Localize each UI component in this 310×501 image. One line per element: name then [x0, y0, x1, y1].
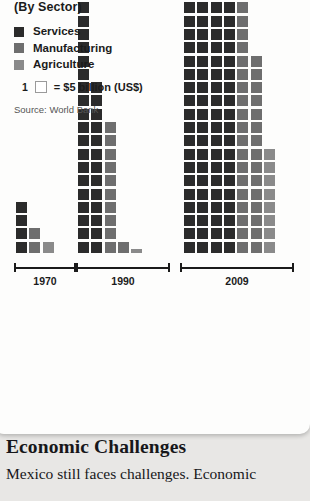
- pictogram-square: [237, 122, 248, 133]
- pictogram-square: [29, 242, 40, 253]
- axis-cap-right: [292, 263, 294, 272]
- pictogram-square: [211, 162, 222, 173]
- pictogram-square: [224, 122, 235, 133]
- pictogram-square: [237, 149, 248, 160]
- pictogram-column: [118, 242, 129, 255]
- pictogram-square: [78, 162, 89, 173]
- pictogram-square: [197, 122, 208, 133]
- pictogram-square: [211, 135, 222, 146]
- pictogram-square: [211, 189, 222, 200]
- manufacturing-swatch-icon: [14, 43, 24, 53]
- services-swatch-icon: [14, 27, 24, 37]
- pictogram-square: [251, 56, 262, 67]
- article-heading: Economic Challenges: [6, 436, 304, 458]
- legend-item-label: Services: [33, 26, 80, 38]
- axis-cap-left: [14, 263, 16, 272]
- pictogram-square: [224, 29, 235, 40]
- pictogram-square: [91, 228, 102, 239]
- pictogram-square: [91, 162, 102, 173]
- pictogram-square: [237, 42, 248, 53]
- pictogram-square: [251, 175, 262, 186]
- pictogram-square: [224, 202, 235, 213]
- pictogram-square: [131, 249, 142, 253]
- pictogram-square: [224, 16, 235, 27]
- pictogram-square: [184, 202, 195, 213]
- pictogram-square: [78, 242, 89, 253]
- pictogram-square: [91, 202, 102, 213]
- pictogram-square: [184, 228, 195, 239]
- pictogram-square: [224, 228, 235, 239]
- pictogram-square: [105, 242, 116, 253]
- pictogram-square: [105, 215, 116, 226]
- pictogram-square: [224, 215, 235, 226]
- pictogram-square: [78, 149, 89, 160]
- pictogram-square: [184, 189, 195, 200]
- pictogram-square: [16, 242, 27, 253]
- pictogram-square: [237, 29, 248, 40]
- axis-label-2009: 2009: [180, 275, 294, 287]
- axis-cap-left: [180, 263, 182, 272]
- legend-item-label: Agriculture: [33, 59, 94, 71]
- pictogram-square: [105, 162, 116, 173]
- agriculture-swatch-icon: [14, 60, 24, 70]
- pictogram-square: [78, 135, 89, 146]
- pictogram-square: [118, 242, 129, 253]
- pictogram-square: [224, 2, 235, 13]
- pictogram-square: [184, 175, 195, 186]
- pictogram-column: [16, 202, 27, 255]
- pictogram-square: [184, 242, 195, 253]
- pictogram-square: [237, 56, 248, 67]
- pictogram-square: [224, 82, 235, 93]
- pictogram-square: [251, 228, 262, 239]
- pictogram-square: [16, 215, 27, 226]
- pictogram-square: [91, 189, 102, 200]
- pictogram-square: [211, 228, 222, 239]
- unit-number: 1: [22, 81, 28, 93]
- pictogram-square: [264, 149, 275, 160]
- pictogram-square: [91, 215, 102, 226]
- pictogram-square: [251, 95, 262, 106]
- pictogram-square: [251, 122, 262, 133]
- pictogram-square: [211, 2, 222, 13]
- chart-card: 197019902009 (By Sector) Services Manufa…: [0, 0, 310, 434]
- pictogram-square: [211, 149, 222, 160]
- axis-cap-left: [76, 263, 78, 272]
- pictogram-square: [264, 175, 275, 186]
- pictogram-square: [237, 228, 248, 239]
- pictogram-square: [91, 242, 102, 253]
- pictogram-square: [197, 175, 208, 186]
- pictogram-square: [211, 175, 222, 186]
- pictogram-square: [211, 42, 222, 53]
- legend-item-manufacturing: Manufacturing: [14, 43, 210, 55]
- pictogram-square: [184, 149, 195, 160]
- pictogram-square: [197, 189, 208, 200]
- pictogram-square: [29, 228, 40, 239]
- pictogram-square: [78, 175, 89, 186]
- axis-cap-right: [168, 263, 170, 272]
- pictogram-square: [211, 109, 222, 120]
- pictogram-column: [211, 0, 222, 255]
- pictogram-square: [237, 162, 248, 173]
- pictogram-square: [237, 189, 248, 200]
- pictogram-square: [91, 122, 102, 133]
- pictogram-square: [211, 215, 222, 226]
- pictogram-square: [224, 95, 235, 106]
- pictogram-square: [184, 162, 195, 173]
- pictogram-square: [91, 149, 102, 160]
- pictogram-square: [237, 16, 248, 27]
- pictogram-square: [224, 162, 235, 173]
- pictogram-square: [184, 215, 195, 226]
- pictogram-square: [43, 242, 54, 253]
- pictogram-square: [211, 242, 222, 253]
- pictogram-square: [78, 228, 89, 239]
- pictogram-column: [105, 122, 116, 255]
- pictogram-square: [211, 56, 222, 67]
- pictogram-square: [211, 95, 222, 106]
- pictogram-square: [237, 215, 248, 226]
- pictogram-square: [224, 109, 235, 120]
- pictogram-square: [251, 149, 262, 160]
- pictogram-column: [29, 228, 40, 255]
- pictogram-square: [16, 228, 27, 239]
- pictogram-square: [211, 122, 222, 133]
- pictogram-square: [237, 2, 248, 13]
